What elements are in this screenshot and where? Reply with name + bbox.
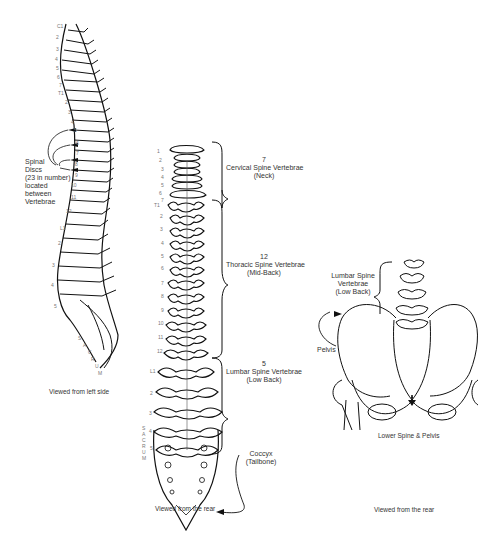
cervical-group-label: 7 Cervical Spine Vertebrae (Neck)	[226, 156, 302, 180]
vertebra-label: 4	[161, 174, 164, 180]
vertebra-label-l1: L1	[60, 225, 66, 231]
annotation-line: Spinal	[25, 158, 71, 166]
thoracic-group-label: 12 Thoracic Spine Vertebrae (Mid-Back)	[226, 253, 302, 277]
group-region: (Low Back)	[226, 376, 302, 384]
vertebra-label: 4	[51, 282, 54, 288]
annotation-line: (23 in number)	[25, 174, 71, 182]
pelvis-label: Pelvis	[317, 346, 336, 354]
vertebra-label: 7	[59, 82, 62, 88]
vertebra-label: 5	[150, 445, 153, 451]
label-line: Vertebrae	[330, 280, 376, 288]
vertebra-label-c1: C1	[57, 23, 63, 29]
vertebra-label: 8	[161, 293, 164, 299]
vertebra-label: 8	[75, 161, 78, 167]
group-count: 7	[226, 156, 302, 164]
vertebra-label: 2	[58, 240, 61, 246]
annotation-line: located	[25, 182, 71, 190]
sacrum-letter: C	[88, 349, 92, 355]
sacrum-letter: S	[78, 335, 81, 341]
vertebra-label: 5	[161, 253, 164, 259]
vertebra-label: 3	[52, 262, 55, 268]
annotation-line: between	[25, 190, 71, 198]
pelvis-view-caption: Viewed from the rear	[374, 506, 434, 513]
sacrum-letter: U	[95, 363, 99, 369]
vertebra-label-t1: T1	[58, 90, 64, 96]
vertebra-label: 4	[55, 56, 58, 62]
vertebra-label: 6	[76, 140, 79, 146]
vertebra-label: 7	[161, 280, 164, 286]
spinal-discs-annotation: Spinal Discs (23 in number) located betw…	[25, 158, 71, 206]
vertebra-label: 10	[158, 320, 164, 326]
group-name: Cervical Spine Vertebrae	[226, 164, 302, 172]
rear-view-spine	[154, 142, 245, 530]
vertebra-label: 9	[75, 172, 78, 178]
vertebra-label: 3	[56, 46, 59, 52]
vertebra-label-t1: T1	[154, 202, 160, 208]
annotation-line: Discs	[25, 166, 71, 174]
vertebra-label: 12	[157, 348, 163, 354]
vertebra-label: 1	[157, 148, 160, 154]
vertebra-label: 5	[161, 182, 164, 188]
vertebra-label: 9	[161, 307, 164, 313]
vertebra-label: 7	[76, 150, 79, 156]
sacrum-letter: A	[83, 342, 86, 348]
vertebra-label: 11	[158, 334, 163, 340]
sacrum-letter: M	[142, 455, 146, 461]
vertebra-label: 6	[159, 190, 162, 196]
lumbar-group-label: 5 Lumbar Spine Vertebrae (Low Back)	[226, 360, 302, 384]
rear-view-caption: Viewed from the rear	[155, 505, 215, 512]
vertebra-label: 7	[161, 197, 164, 203]
group-region: (Neck)	[226, 172, 302, 180]
annotation-line: Vertebrae	[25, 198, 71, 206]
group-count: 5	[226, 360, 302, 368]
vertebra-label: 3	[160, 226, 163, 232]
vertebra-label: 4	[149, 428, 152, 434]
vertebra-label: 3	[149, 410, 152, 416]
vertebra-label: 5	[54, 303, 57, 309]
pelvis-view-title: Lower Spine & Pelvis	[378, 432, 439, 439]
vertebra-label: 6	[161, 265, 164, 271]
vertebra-label: 2	[150, 390, 153, 396]
coccyx-alias: (Tailbone)	[244, 458, 278, 466]
coccyx-label: Coccyx (Tailbone)	[244, 450, 278, 466]
vertebra-label: 11	[71, 194, 76, 200]
group-name: Thoracic Spine Vertebrae	[226, 261, 302, 269]
vertebra-label: 5	[74, 127, 77, 133]
vertebra-label: 10	[71, 182, 77, 188]
label-line: Lumbar Spine	[330, 272, 376, 280]
sacrum-letter: R	[91, 356, 95, 362]
vertebra-label: 2	[159, 157, 162, 163]
vertebra-label: 4	[161, 240, 164, 246]
vertebra-label: 2	[160, 213, 163, 219]
vertebra-label: 12	[66, 208, 72, 214]
vertebra-label: 2	[56, 34, 59, 40]
group-count: 12	[226, 253, 302, 261]
sacrum-letter: M	[98, 370, 102, 376]
vertebra-label: 4	[71, 119, 74, 125]
coccyx-name: Coccyx	[244, 450, 278, 458]
vertebra-label: 5	[56, 65, 59, 71]
vertebra-label: 3	[68, 109, 71, 115]
vertebra-label: 2	[65, 99, 68, 105]
side-view-caption: Viewed from left side	[49, 388, 109, 395]
vertebra-label: 6	[57, 74, 60, 80]
group-name: Lumbar Spine Vertebrae	[226, 368, 302, 376]
pelvis-lumbar-label: Lumbar Spine Vertebrae (Low Back)	[330, 272, 376, 296]
vertebra-label-l1: L1	[150, 368, 156, 374]
group-region: (Mid-Back)	[226, 269, 302, 277]
vertebra-label: 3	[161, 166, 164, 172]
label-line: (Low Back)	[330, 288, 376, 296]
